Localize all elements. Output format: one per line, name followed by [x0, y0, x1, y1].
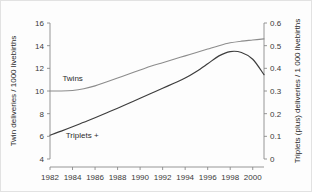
- right-tick-label: 0.1: [270, 132, 282, 141]
- right-axis-title: Triplets (plus) deliveries / 1 000 liveb…: [293, 19, 302, 164]
- x-tick-label: 1984: [64, 173, 82, 182]
- series-lines: [50, 39, 264, 135]
- x-tick-label: 1986: [86, 173, 104, 182]
- x-tick-label: 1998: [221, 173, 239, 182]
- right-tick-label: 0.2: [270, 110, 282, 119]
- x-tick-label: 1982: [41, 173, 59, 182]
- left-tick-label: 10: [35, 87, 44, 96]
- right-axis-tick-labels: 00.10.20.30.40.50.6: [270, 19, 282, 164]
- series-label-twins: Twins: [62, 74, 82, 83]
- left-tick-label: 14: [35, 42, 44, 51]
- left-tick-label: 12: [35, 64, 44, 73]
- right-tick-label: 0.6: [270, 19, 282, 28]
- right-tick-label: 0: [270, 155, 275, 164]
- left-tick-label: 6: [40, 132, 45, 141]
- series-label-triplets: Triplets +: [66, 131, 99, 140]
- x-tick-label: 1992: [154, 173, 172, 182]
- left-tick-label: 8: [40, 110, 45, 119]
- x-tick-label: 1988: [109, 173, 127, 182]
- left-axis-title: Twin deliveries / 1000 livebirths: [9, 36, 18, 147]
- x-tick-label: 1990: [131, 173, 149, 182]
- right-tick-label: 0.3: [270, 87, 282, 96]
- axis-tick-marks: [47, 23, 267, 170]
- axis-lines: [50, 23, 264, 167]
- series-inline-labels: TwinsTriplets +: [62, 74, 99, 140]
- left-axis-tick-labels: 46810121416: [35, 19, 44, 164]
- twin-triplet-delivery-line-chart: 46810121416 00.10.20.30.40.50.6 19821984…: [1, 1, 312, 192]
- x-tick-label: 1994: [176, 173, 194, 182]
- x-axis-tick-labels: 1982198419861988199019921994199619982000: [41, 173, 262, 182]
- left-tick-label: 4: [40, 155, 45, 164]
- x-tick-label: 1996: [199, 173, 217, 182]
- x-tick-label: 2000: [244, 173, 262, 182]
- left-tick-label: 16: [35, 19, 44, 28]
- right-tick-label: 0.4: [270, 64, 282, 73]
- chart-figure: 46810121416 00.10.20.30.40.50.6 19821984…: [0, 0, 312, 192]
- right-tick-label: 0.5: [270, 42, 282, 51]
